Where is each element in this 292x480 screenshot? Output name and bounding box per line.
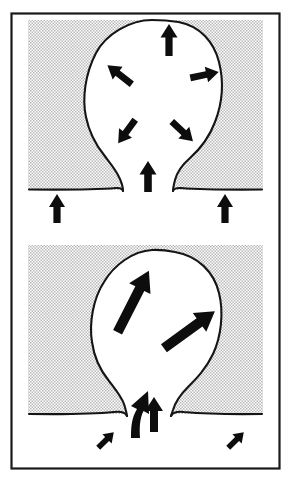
arrow-ground-right-upright <box>224 428 249 453</box>
figure-root <box>0 0 292 480</box>
arrow-ground-right-up <box>217 194 233 223</box>
figure-canvas <box>0 0 292 480</box>
panel-lower <box>28 245 263 452</box>
arrow-ground-left-upright <box>94 428 119 453</box>
arrow-ground-left-up <box>49 194 65 223</box>
panel-upper <box>28 20 263 223</box>
